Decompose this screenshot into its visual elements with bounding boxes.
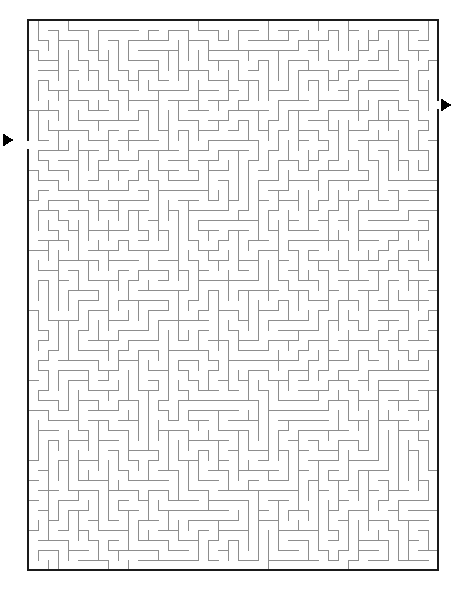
maze-canvas <box>0 0 472 591</box>
page-background <box>0 0 472 591</box>
maze-page <box>0 0 472 591</box>
